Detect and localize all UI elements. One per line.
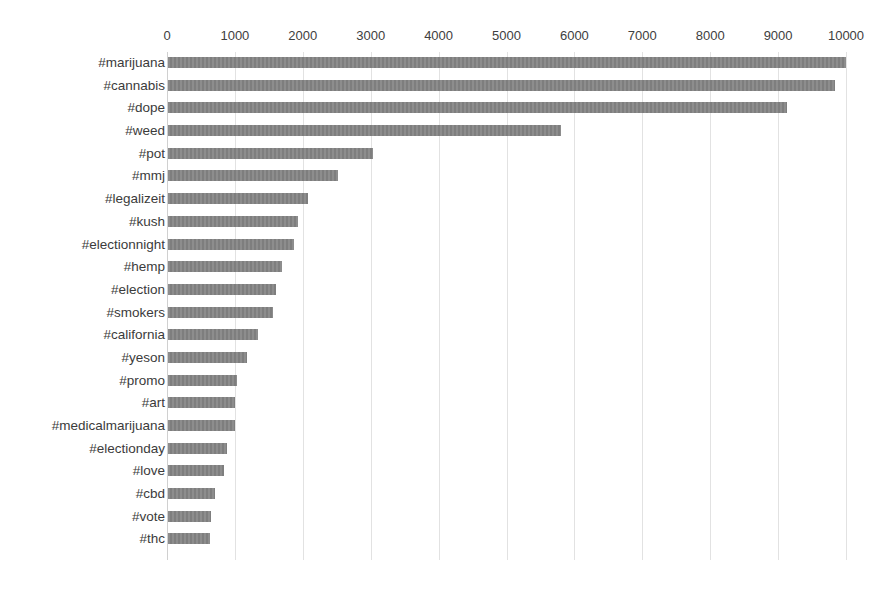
x-tick-label-5000: 5000 [492, 28, 521, 44]
bar-marijuana [168, 57, 846, 68]
category-label-smokers: #smokers [106, 302, 165, 325]
category-label-cannabis: #cannabis [103, 75, 165, 98]
bar-california [168, 329, 258, 340]
category-label-yeson: #yeson [121, 347, 165, 370]
category-label-legalizeit: #legalizeit [105, 188, 165, 211]
bar-row: #weed [0, 120, 883, 143]
bar-love [168, 465, 224, 476]
bar-row: #thc [0, 528, 883, 551]
category-label-california: #california [103, 324, 165, 347]
category-label-promo: #promo [119, 370, 165, 393]
bar-election [168, 284, 276, 295]
category-label-mmj: #mmj [132, 165, 165, 188]
x-tick-label-6000: 6000 [560, 28, 589, 44]
x-tick-label-3000: 3000 [356, 28, 385, 44]
bar-kush [168, 216, 298, 227]
x-tick-label-2000: 2000 [288, 28, 317, 44]
category-label-cbd: #cbd [136, 483, 165, 506]
category-label-electionday: #electionday [89, 438, 165, 461]
x-axis-tick-labels: 0100020003000400050006000700080009000100… [0, 28, 883, 48]
bar-row: #yeson [0, 347, 883, 370]
bar-dope [168, 102, 787, 113]
bar-smokers [168, 307, 273, 318]
category-label-marijuana: #marijuana [98, 52, 165, 75]
category-label-electionnight: #electionnight [82, 234, 165, 257]
bar-row: #california [0, 324, 883, 347]
bar-hemp [168, 261, 282, 272]
bar-row: #pot [0, 143, 883, 166]
bar-row: #kush [0, 211, 883, 234]
bar-row: #vote [0, 506, 883, 529]
category-label-pot: #pot [139, 143, 165, 166]
bar-row: #mmj [0, 165, 883, 188]
x-tick-label-9000: 9000 [764, 28, 793, 44]
bar-row: #medicalmarijuana [0, 415, 883, 438]
bar-mmj [168, 170, 338, 181]
category-label-love: #love [133, 460, 165, 483]
bar-row: #election [0, 279, 883, 302]
x-tick-label-10000: 10000 [828, 28, 864, 44]
bar-row: #promo [0, 370, 883, 393]
bar-electionnight [168, 239, 294, 250]
bar-art [168, 397, 235, 408]
category-label-thc: #thc [139, 528, 165, 551]
bar-yeson [168, 352, 247, 363]
category-label-vote: #vote [132, 506, 165, 529]
bar-row: #electionnight [0, 234, 883, 257]
bar-row: #cbd [0, 483, 883, 506]
bar-cbd [168, 488, 215, 499]
bar-row: #electionday [0, 438, 883, 461]
bar-row: #dope [0, 97, 883, 120]
bar-electionday [168, 443, 227, 454]
x-tick-label-4000: 4000 [424, 28, 453, 44]
bar-vote [168, 511, 211, 522]
bar-row: #hemp [0, 256, 883, 279]
bar-row: #smokers [0, 302, 883, 325]
bar-row: #art [0, 392, 883, 415]
x-tick-label-7000: 7000 [628, 28, 657, 44]
bar-row: #love [0, 460, 883, 483]
category-label-election: #election [111, 279, 165, 302]
bar-cannabis [168, 80, 835, 91]
bar-thc [168, 533, 210, 544]
bar-promo [168, 375, 237, 386]
category-label-medicalmarijuana: #medicalmarijuana [52, 415, 165, 438]
x-tick-label-8000: 8000 [696, 28, 725, 44]
hashtag-frequency-bar-chart: 0100020003000400050006000700080009000100… [0, 0, 883, 597]
x-tick-label-0: 0 [163, 28, 170, 44]
bar-pot [168, 148, 373, 159]
bar-rows: #marijuana#cannabis#dope#weed#pot#mmj#le… [0, 52, 883, 560]
bar-row: #legalizeit [0, 188, 883, 211]
category-label-kush: #kush [129, 211, 165, 234]
category-label-dope: #dope [127, 97, 165, 120]
bar-weed [168, 125, 561, 136]
bar-medicalmarijuana [168, 420, 235, 431]
bar-legalizeit [168, 193, 308, 204]
category-label-hemp: #hemp [124, 256, 165, 279]
category-label-weed: #weed [125, 120, 165, 143]
x-tick-label-1000: 1000 [220, 28, 249, 44]
bar-row: #marijuana [0, 52, 883, 75]
category-label-art: #art [142, 392, 165, 415]
bar-row: #cannabis [0, 75, 883, 98]
